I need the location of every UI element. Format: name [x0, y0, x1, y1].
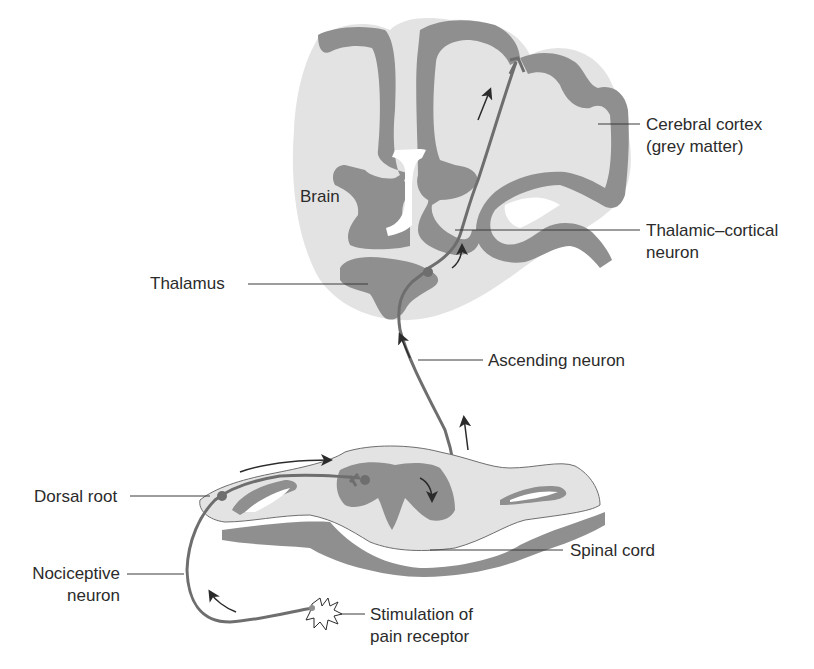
label-thalamic-cortical-line1: Thalamic–cortical: [646, 220, 778, 242]
brain-label: Brain: [300, 186, 340, 208]
arrow-ascending-upper: [400, 335, 410, 358]
label-nociceptive-neuron: Nociceptive neuron: [10, 563, 120, 607]
label-cerebral-cortex-line1: Cerebral cortex: [646, 114, 762, 136]
label-ascending-neuron: Ascending neuron: [488, 350, 625, 372]
receptor-ending: [309, 605, 315, 611]
label-spinal-cord: Spinal cord: [570, 540, 655, 562]
pain-pathway-diagram: [0, 0, 814, 669]
label-stimulation-line1: Stimulation of: [370, 604, 473, 626]
arrow-ascending-lower: [464, 418, 468, 450]
label-nociceptive-line1: Nociceptive: [10, 563, 120, 585]
spinal-synapse: [360, 475, 370, 485]
arrow-nociceptive: [210, 592, 236, 612]
dorsal-root-ganglion: [217, 491, 227, 501]
label-stimulation-line2: pain receptor: [370, 626, 473, 648]
label-stimulation: Stimulation of pain receptor: [370, 604, 473, 648]
label-thalamic-cortical-neuron: Thalamic–cortical neuron: [646, 220, 778, 264]
label-dorsal-root: Dorsal root: [34, 486, 117, 508]
brain-section: [293, 18, 631, 320]
pain-receptor-starburst-icon: [306, 598, 342, 630]
label-cerebral-cortex-line2: (grey matter): [646, 136, 762, 158]
label-thalamus: Thalamus: [150, 273, 225, 295]
label-thalamic-cortical-line2: neuron: [646, 242, 778, 264]
label-nociceptive-line2: neuron: [10, 585, 120, 607]
label-cerebral-cortex: Cerebral cortex (grey matter): [646, 114, 762, 158]
